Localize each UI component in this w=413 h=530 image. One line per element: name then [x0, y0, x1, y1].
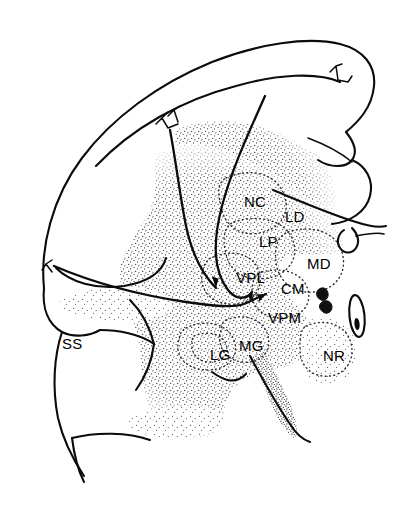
label-ss: SS: [62, 336, 82, 351]
label-lg: LG: [210, 347, 230, 362]
label-ld: LD: [285, 209, 305, 224]
label-nc: NC: [244, 194, 266, 209]
label-mg: MG: [239, 338, 264, 353]
figure-root: NC LD LP MD VPL CM VPM MG LG NR SS: [0, 0, 413, 530]
label-nr: NR: [323, 348, 345, 363]
label-cm: CM: [281, 281, 305, 296]
label-vpm: VPM: [268, 310, 301, 325]
label-vpl: VPL: [236, 270, 265, 285]
label-md: MD: [307, 256, 331, 271]
label-lp: LP: [259, 234, 278, 249]
label-layer: NC LD LP MD VPL CM VPM MG LG NR SS: [0, 0, 413, 530]
